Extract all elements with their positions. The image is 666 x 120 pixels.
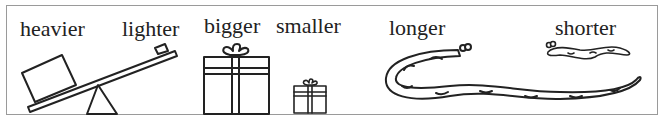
short-snake-icon (547, 42, 630, 59)
big-gift-icon (204, 44, 269, 114)
small-gift-icon (294, 79, 326, 113)
seesaw-icon (22, 44, 177, 114)
